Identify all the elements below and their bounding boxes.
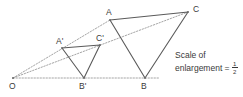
- vertex-dot-c: [187, 11, 189, 13]
- vertex-dot-b-prime: [83, 77, 85, 79]
- scale-factor-fraction: 1 2: [232, 61, 238, 75]
- ray-o-to-a-icon: [13, 20, 110, 78]
- caption-line-2: enlargement = 1 2: [175, 61, 238, 75]
- scale-of-enlargement-caption: Scale of enlargement = 1 2: [175, 49, 238, 75]
- fraction-numerator: 1: [232, 61, 237, 67]
- small-triangle-outline: [62, 45, 100, 78]
- vertex-label-a: A: [106, 8, 112, 17]
- caption-line-2-text: enlargement =: [175, 62, 230, 74]
- vertex-label-b-prime: B': [79, 82, 86, 91]
- vertex-dot-c-prime: [99, 44, 101, 46]
- vertex-label-b: B: [141, 82, 147, 91]
- vertex-label-c-prime: C': [96, 34, 104, 43]
- vertex-dot-b: [144, 77, 146, 79]
- vertex-label-a-prime: A': [56, 37, 63, 46]
- triangle-a-prime-b-prime-c-prime: [62, 45, 100, 78]
- vertex-dot-o: [12, 77, 14, 79]
- vertex-dot-a-prime: [61, 47, 63, 49]
- enlargement-diagram: O A' B' C' A B C Scale of enlargement = …: [0, 0, 243, 97]
- vertex-label-c: C: [193, 5, 199, 14]
- vertex-label-o: O: [9, 82, 16, 91]
- vertex-dot-a: [109, 19, 111, 21]
- fraction-denominator: 2: [232, 69, 237, 75]
- caption-line-1: Scale of: [175, 49, 238, 61]
